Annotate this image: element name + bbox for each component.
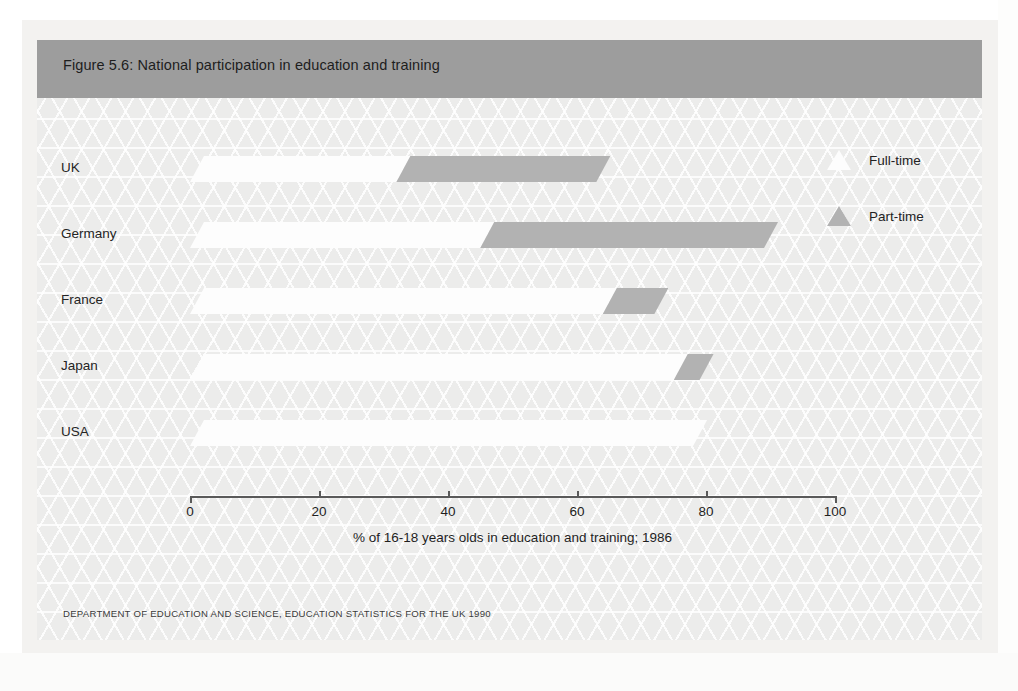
bar-segment-part-time [480,222,778,248]
x-axis-tick-label: 20 [311,504,326,519]
x-axis-tick-label: 80 [698,504,713,519]
bar-segment-part-time [396,156,610,182]
triangle-icon [827,150,851,170]
x-axis-cap-start [190,496,192,503]
figure-title: Figure 5.6: National participation in ed… [63,57,440,73]
chart-plot-area: UKGermanyFranceJapanUSA020406080100% of … [37,98,982,640]
x-axis-title: % of 16-18 years olds in education and t… [353,530,672,545]
x-axis-tick-label: 60 [569,504,584,519]
legend-label: Full-time [869,153,921,168]
page-margin-left [0,0,22,691]
figure-source-note: DEPARTMENT OF EDUCATION AND SCIENCE, EDU… [63,608,491,619]
bar-segment-full-time [190,288,617,314]
page-margin-top [0,0,1018,20]
figure-panel: Figure 5.6: National participation in ed… [37,40,982,640]
x-axis-line [190,496,835,498]
legend-label: Part-time [869,209,924,224]
x-axis-tick [448,491,450,497]
bar-group-usa [37,420,982,446]
x-axis-tick-label: 100 [824,504,847,519]
scanned-page-background: Figure 5.6: National participation in ed… [0,0,1018,691]
bar-segment-full-time [190,354,688,380]
x-axis-tick-label: 0 [186,504,194,519]
page-margin-bottom [0,653,1018,691]
x-axis-tick [706,491,708,497]
x-axis-tick [319,491,321,497]
x-axis-tick [577,491,579,497]
bar-segment-full-time [190,156,410,182]
bar-group-japan [37,354,982,380]
legend-item-part-time[interactable]: Part-time [827,206,924,226]
legend-item-full-time[interactable]: Full-time [827,150,921,170]
bar-segment-full-time [190,420,707,446]
figure-title-bar: Figure 5.6: National participation in ed… [37,40,982,98]
page-margin-right [998,0,1018,691]
triangle-icon [827,206,851,226]
bar-group-france [37,288,982,314]
x-axis-cap-end [835,496,837,503]
x-axis-tick-label: 40 [440,504,455,519]
bar-segment-full-time [190,222,494,248]
